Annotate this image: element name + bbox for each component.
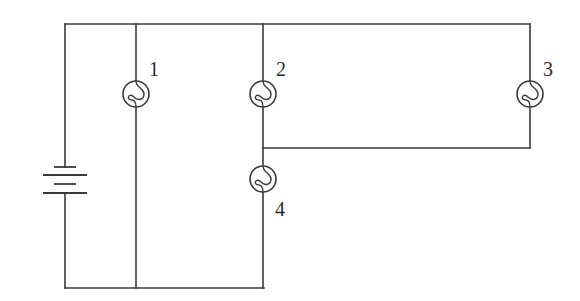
- bulb-1-icon: [123, 81, 149, 107]
- bulb-2-icon: [250, 81, 276, 107]
- wires: [65, 24, 530, 288]
- bulb-4-icon: [250, 166, 276, 192]
- bulb-1-label: 1: [149, 58, 159, 80]
- circuit-diagram: 1 2 3 4: [0, 0, 580, 301]
- battery-icon: [43, 167, 87, 193]
- bulb-3-label: 3: [543, 58, 553, 80]
- bulb-3-icon: [517, 81, 543, 107]
- bulb-2-label: 2: [276, 58, 286, 80]
- bulb-4-label: 4: [275, 198, 285, 220]
